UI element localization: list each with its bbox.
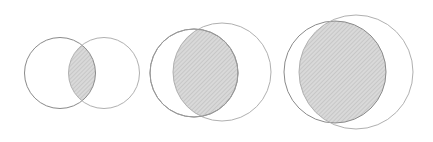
venn-pair-3 [284, 15, 413, 129]
venn-diagram-canvas [0, 0, 433, 142]
venn-pair-2 [150, 23, 271, 121]
venn-pair-1 [25, 38, 140, 109]
pair-3-intersection [299, 15, 413, 129]
